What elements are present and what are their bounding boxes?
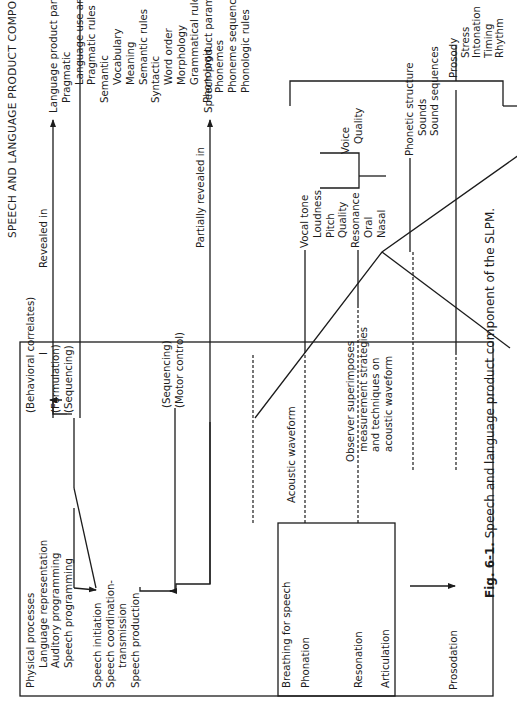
observer-line-3: and techniques on [370, 327, 383, 462]
vocabulary-label: Vocabulary [112, 0, 125, 113]
transmission-label: transmission [117, 580, 130, 688]
vocal-tone-label: Vocal tone [299, 190, 312, 248]
grammatical-rules-label: Grammatical rules [189, 0, 202, 113]
pitch-label: Pitch [325, 190, 338, 248]
oral-label: Oral [363, 190, 376, 248]
prosodation-label: Prosodation [448, 630, 461, 690]
physical-processes-list: Physical processes Language representati… [25, 540, 75, 688]
phonemes-label: Phonemes [214, 0, 227, 113]
speech-product-parameters-label: Speech product parameters [203, 0, 216, 113]
sound-sequences-label: Sound sequences [429, 46, 442, 156]
speech-initiation-label: Speech initiation [92, 580, 105, 688]
auditory-programming-label: Auditory programming [50, 540, 63, 688]
resonation-label: Resonation [353, 631, 366, 688]
syntactic-label: Syntactic [150, 0, 163, 113]
semantic-label: Semantic [99, 0, 112, 113]
speech-programming-label: Speech programming [63, 540, 76, 688]
diagram-canvas: SPEECH AND LANGUAGE PRODUCT COMPONENT Ph… [0, 0, 517, 718]
voice-quality-label: Voice Quality [340, 108, 365, 154]
revealed-in-label: Revealed in [38, 208, 51, 268]
motor-labels: (Sequencing) (Motor control) [161, 332, 186, 408]
prosody-list: Prosody Stress Intonation Timing Rhythm [448, 6, 506, 78]
figure-caption: Fig. 6-1. Speech and language product co… [484, 208, 497, 598]
phoneme-sequences-label: Phoneme sequences [227, 0, 240, 113]
quality-label: Quality [337, 190, 350, 248]
vocal-list: Vocal tone Loudness Pitch Quality Resona… [299, 190, 389, 248]
language-parameters-list: Language product parameters Pragmatic La… [48, 0, 253, 113]
behavioral-correlates-list: (Behavioral correlates) I (Formulation) … [25, 297, 75, 413]
pragmatic-rules-label: Pragmatic rules [86, 0, 99, 113]
diagram-title: SPEECH AND LANGUAGE PRODUCT COMPONENT [6, 0, 19, 238]
observer-note: Observer superimposes measurement strate… [345, 327, 395, 462]
speech-coordination-label: Speech coordination- [105, 580, 118, 688]
loudness-label: Loudness [312, 190, 325, 248]
breathing-label: Breathing for speech [281, 581, 294, 688]
speech-processes-list: Speech initiation Speech coordination- t… [92, 580, 142, 688]
timing-label: Timing [483, 6, 495, 78]
voice-label: Voice [340, 108, 353, 154]
phonologic-rules-label: Phonologic rules [240, 0, 253, 113]
phonetic-structure-label: Phonetic structure [404, 46, 417, 156]
intonation-label: Intonation [471, 6, 483, 78]
rhythm-label: Rhythm [494, 6, 506, 78]
observer-line-1: Observer superimposes [345, 327, 358, 462]
language-use-label: Language use and focus [74, 0, 87, 113]
phonetic-list: Phonetic structure Sounds Sound sequence… [404, 46, 442, 156]
formulation-label: (Formulation) [50, 297, 63, 413]
behavioral-correlates-label: (Behavioral correlates) [25, 297, 38, 413]
sequencing-motor-label: (Sequencing) [161, 332, 174, 408]
partially-revealed-in-label: Partially revealed in [195, 147, 208, 248]
phonation-label: Phonation [300, 637, 313, 688]
nasal-label: Nasal [376, 190, 389, 248]
meaning-label: Meaning [125, 0, 138, 113]
acoustic-waveform-label: Acoustic waveform [286, 406, 299, 503]
speech-production-label: Speech production [130, 580, 143, 688]
word-order-label: Word order [163, 0, 176, 113]
quality-group-label: Quality [353, 108, 366, 154]
prosody-label: Prosody [448, 6, 460, 78]
pragmatic-label: Pragmatic [61, 0, 74, 113]
observer-line-4: acoustic waveform [383, 327, 396, 462]
language-representation-label: Language representation [38, 540, 51, 688]
caption-text: Speech and language product component of… [483, 208, 497, 542]
observer-line-2: measurement strategies [358, 327, 371, 462]
figure-number: Fig. 6-1. [483, 542, 497, 598]
articulation-label: Articulation [380, 629, 393, 688]
language-product-parameters-label: Language product parameters [48, 0, 61, 113]
sequencing-label: (Sequencing) [63, 297, 76, 413]
resonance-label: Resonance [350, 190, 363, 248]
stress-label: Stress [460, 6, 472, 78]
sounds-label: Sounds [417, 46, 430, 156]
motor-control-label: (Motor control) [174, 332, 187, 408]
semantic-rules-label: Semantic rules [138, 0, 151, 113]
morphology-label: Morphology [176, 0, 189, 113]
physical-processes-label: Physical processes [25, 540, 38, 688]
divider-mark: I [38, 297, 51, 413]
